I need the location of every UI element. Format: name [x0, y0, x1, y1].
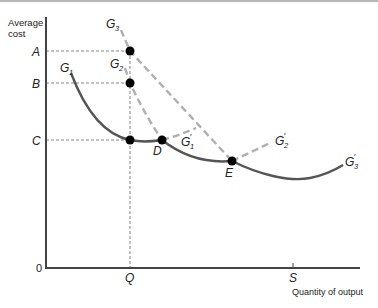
svg-text:′: ′ — [284, 131, 286, 141]
svg-text:G: G — [110, 57, 119, 71]
chart-canvas: Average cost A B C 0 Q S Quantity of out… — [0, 0, 378, 308]
curve-label-g1: G 1 — [60, 61, 73, 77]
svg-text:G: G — [181, 135, 190, 149]
svg-text:G: G — [60, 61, 69, 75]
svg-text:1: 1 — [190, 142, 194, 151]
curve-label-g2: G 2 — [110, 57, 124, 73]
y-tick-a: A — [31, 45, 40, 59]
curve-label-g3-prime: G 3 ′ — [345, 152, 359, 171]
x-axis-label: Quantity of output — [292, 287, 364, 297]
curve-label-g2-prime: G 2 ′ — [275, 131, 289, 150]
curve-label-g1-prime: G 1 ′ — [181, 132, 194, 151]
origin-label: 0 — [36, 262, 42, 274]
svg-text:2: 2 — [118, 64, 124, 73]
point-c-q — [126, 136, 135, 145]
curve-label-g3: G 3 — [106, 17, 120, 33]
svg-text:3: 3 — [115, 24, 120, 33]
svg-text:G: G — [106, 17, 115, 31]
svg-text:2: 2 — [283, 141, 289, 150]
svg-text:1: 1 — [69, 68, 73, 77]
y-axis-label-line1: Average — [8, 17, 43, 28]
x-tick-s: S — [289, 271, 297, 285]
point-a-q — [126, 47, 135, 56]
svg-text:G: G — [275, 134, 284, 148]
svg-text:G: G — [345, 155, 354, 169]
label-e: E — [225, 166, 234, 180]
curve-g2-prime-dashed — [232, 143, 270, 161]
solid-curves — [71, 73, 343, 179]
point-b-q — [126, 79, 135, 88]
svg-text:3: 3 — [354, 162, 359, 171]
y-axis-label-line2: cost — [8, 28, 26, 39]
curve-g3-solid — [232, 161, 343, 179]
label-d: D — [153, 144, 162, 158]
svg-text:′: ′ — [354, 152, 356, 162]
y-tick-c: C — [32, 134, 41, 148]
axes — [45, 17, 360, 268]
x-tick-q: Q — [125, 271, 134, 285]
y-tick-b: B — [32, 77, 40, 91]
guide-lines — [46, 51, 130, 268]
svg-text:′: ′ — [190, 132, 192, 142]
point-e — [228, 157, 237, 166]
